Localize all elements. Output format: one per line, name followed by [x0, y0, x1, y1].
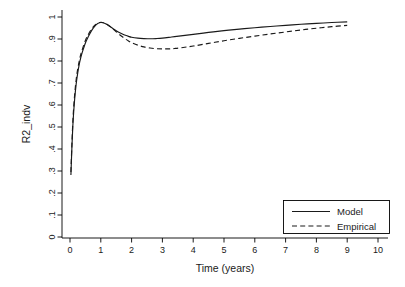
- line-chart: 0.1.2.3.4.5.6.7.8.91 012345678910 Time (…: [0, 0, 405, 287]
- y-tick-label: .1: [47, 211, 57, 219]
- y-tick-label: .9: [47, 35, 57, 43]
- x-tick-label: 5: [221, 245, 226, 255]
- y-axis-title: R2_indv: [20, 104, 32, 143]
- y-axis-ticks: 0.1.2.3.4.5.6.7.8.91: [47, 14, 62, 239]
- x-tick-label: 10: [373, 245, 383, 255]
- x-tick-label: 4: [191, 245, 196, 255]
- x-axis-title: Time (years): [196, 262, 255, 274]
- x-tick-label: 3: [160, 245, 165, 255]
- y-tick-label: .7: [47, 79, 57, 87]
- legend-label-model: Model: [337, 206, 363, 217]
- x-tick-label: 9: [345, 245, 350, 255]
- y-tick-label: .2: [47, 189, 57, 197]
- x-tick-label: 8: [314, 245, 319, 255]
- y-tick-label: .8: [47, 57, 57, 65]
- y-tick-label: 1: [47, 14, 57, 19]
- x-axis-ticks: 012345678910: [67, 238, 383, 255]
- y-tick-label: 0: [47, 234, 57, 239]
- y-tick-label: .6: [47, 101, 57, 109]
- legend-label-empirical: Empirical: [337, 221, 376, 232]
- y-tick-label: .3: [47, 167, 57, 175]
- chart-legend[interactable]: ModelEmpirical: [284, 201, 390, 234]
- y-tick-label: .4: [47, 145, 57, 153]
- x-tick-label: 7: [283, 245, 288, 255]
- chart-figure: 0.1.2.3.4.5.6.7.8.91 012345678910 Time (…: [0, 0, 405, 287]
- y-tick-label: .5: [47, 123, 57, 131]
- x-tick-label: 6: [252, 245, 257, 255]
- x-tick-label: 1: [98, 245, 103, 255]
- x-tick-label: 2: [129, 245, 134, 255]
- x-tick-label: 0: [67, 245, 72, 255]
